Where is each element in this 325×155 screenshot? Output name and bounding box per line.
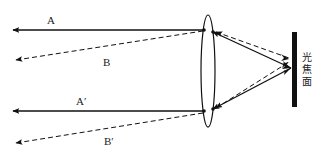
label-b: B xyxy=(103,56,110,68)
ray-b-prime xyxy=(16,62,289,143)
label-a: A xyxy=(47,14,55,26)
ray-a-prime xyxy=(13,68,291,111)
focal-plane-label-3: 面 xyxy=(302,76,312,87)
ray-b xyxy=(16,31,289,60)
lens-junction-a xyxy=(202,28,206,32)
label-b-prime: B′ xyxy=(104,135,114,147)
focal-plane-bar xyxy=(292,32,297,107)
ray-a xyxy=(13,30,291,68)
lens-junction-a-prime xyxy=(202,109,206,113)
lens-junction-a-prime-out xyxy=(211,107,215,111)
label-a-prime: A′ xyxy=(76,95,86,107)
ray-diagram: A B A′ B′ 光 焦 面 xyxy=(0,0,325,155)
lens-junction-a-out xyxy=(211,30,215,34)
focal-plane-label-2: 焦 xyxy=(302,63,312,75)
focal-plane-label-1: 光 xyxy=(302,51,312,63)
